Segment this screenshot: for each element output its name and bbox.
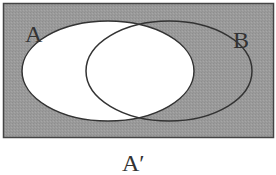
- set-b-label: B: [233, 27, 249, 53]
- complement-label: A′: [122, 150, 145, 175]
- venn-diagram: A B A′: [0, 0, 276, 175]
- set-a-label: A: [25, 21, 43, 47]
- set-a-ellipse: [22, 21, 194, 121]
